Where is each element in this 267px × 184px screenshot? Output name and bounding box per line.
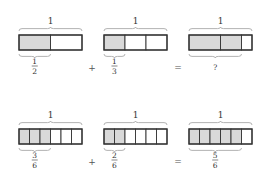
equals-sign: = (174, 157, 182, 167)
unknown-label: ? (213, 63, 217, 72)
whole-label: 1 (218, 16, 224, 26)
equation-row-2: 136126156+= (19, 110, 252, 170)
whole-label: 1 (48, 16, 54, 26)
whole-label: 1 (133, 16, 139, 26)
whole-brace (189, 27, 252, 31)
fraction-numerator: 1 (32, 57, 37, 66)
unshaded-segment (51, 129, 62, 144)
fraction-denominator: 3 (112, 67, 117, 76)
unshaded-segment (146, 129, 157, 144)
whole-brace (189, 121, 252, 125)
fraction-denominator: 6 (112, 161, 117, 170)
shaded-segment (40, 129, 51, 144)
fraction-numerator: 3 (32, 151, 37, 160)
unshaded-segment (125, 129, 136, 144)
shaded-segment (210, 129, 221, 144)
unshaded-segment (51, 35, 83, 50)
fraction-numerator: 2 (112, 151, 117, 160)
shaded-segment (30, 129, 41, 144)
fraction-bar-group: 136 (19, 110, 82, 170)
shaded-segment (231, 129, 242, 144)
fraction-bar-group: 1? (189, 16, 252, 72)
shaded-segment (200, 129, 211, 144)
fraction-bar-group: 113 (104, 16, 167, 76)
fraction-addition-diagram: 1121131?+=136126156+= (0, 0, 267, 184)
fraction-numerator: 5 (213, 151, 218, 160)
shaded-segment (221, 129, 232, 144)
whole-brace (104, 121, 167, 125)
shaded-segment (19, 129, 30, 144)
shaded-segment (19, 35, 51, 50)
unshaded-segment (242, 129, 252, 144)
whole-brace (19, 121, 82, 125)
fraction-denominator: 2 (32, 67, 37, 76)
fraction-denominator: 6 (213, 161, 218, 170)
shaded-segment (221, 35, 242, 50)
unshaded-segment (125, 35, 146, 50)
unshaded-segment (146, 35, 167, 50)
fraction-denominator: 6 (32, 161, 37, 170)
fraction-numerator: 1 (112, 57, 117, 66)
unshaded-segment (136, 129, 147, 144)
unshaded-segment (61, 129, 72, 144)
fraction-bar-group: 156 (189, 110, 252, 170)
shaded-segment (115, 129, 126, 144)
whole-label: 1 (218, 110, 224, 120)
shaded-segment (104, 129, 115, 144)
whole-brace (104, 27, 167, 31)
fraction-bar-group: 112 (19, 16, 82, 76)
whole-brace (19, 27, 82, 31)
unshaded-segment (241, 35, 252, 50)
unshaded-segment (157, 129, 167, 144)
equation-row-1: 1121131?+= (19, 16, 252, 76)
unshaded-segment (72, 129, 82, 144)
shaded-segment (189, 35, 221, 50)
fraction-bar-group: 126 (104, 110, 167, 170)
part-brace (189, 54, 241, 58)
whole-label: 1 (48, 110, 54, 120)
shaded-segment (104, 35, 125, 50)
plus-sign: + (88, 63, 96, 73)
shaded-segment (189, 129, 200, 144)
plus-sign: + (88, 157, 96, 167)
equals-sign: = (174, 63, 182, 73)
whole-label: 1 (133, 110, 139, 120)
